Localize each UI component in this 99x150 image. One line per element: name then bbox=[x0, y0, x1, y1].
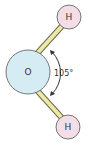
water-molecule-diagram: O H H 105° bbox=[0, 0, 99, 150]
atom-hydrogen-top: H bbox=[57, 5, 81, 29]
atom-oxygen: O bbox=[6, 50, 50, 94]
atom-label-hydrogen-bottom: H bbox=[65, 122, 72, 132]
atom-hydrogen-bottom: H bbox=[56, 115, 80, 139]
bond-angle-label: 105° bbox=[54, 69, 73, 78]
atom-label-oxygen: O bbox=[24, 67, 31, 77]
atom-label-hydrogen-top: H bbox=[66, 12, 73, 22]
